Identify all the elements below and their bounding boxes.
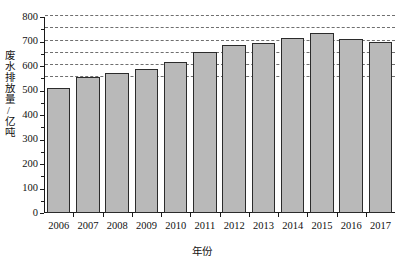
x-tick — [190, 213, 191, 217]
y-tick-label: 800 — [0, 12, 38, 22]
x-tick — [132, 213, 133, 217]
y-tick — [40, 66, 45, 67]
x-axis-title: 年份 — [0, 243, 403, 258]
x-tick — [307, 213, 308, 217]
bars-layer — [44, 17, 395, 213]
y-tick-minor — [41, 54, 44, 55]
y-tick-label: 700 — [0, 36, 38, 46]
bar-chart: 废水排放量/亿吨 0100200300400500600700800 20062… — [0, 0, 403, 269]
y-tick — [40, 42, 45, 43]
bar-2009 — [135, 69, 158, 213]
bar-2017 — [369, 42, 392, 213]
y-tick — [40, 91, 45, 92]
y-tick-label: 0 — [0, 208, 38, 218]
x-tick — [366, 213, 367, 217]
y-tick-minor — [41, 201, 44, 202]
x-tick — [73, 213, 74, 217]
y-tick-minor — [41, 29, 44, 30]
y-tick-label: 100 — [0, 183, 38, 193]
y-tick — [40, 17, 45, 18]
bar-2008 — [105, 73, 128, 213]
x-tick — [249, 213, 250, 217]
y-tick — [40, 164, 45, 165]
y-tick-label: 200 — [0, 159, 38, 169]
bar-2016 — [339, 39, 362, 213]
x-tick — [337, 213, 338, 217]
x-tick — [161, 213, 162, 217]
y-tick-minor — [41, 152, 44, 153]
y-tick-minor — [41, 103, 44, 104]
bar-2010 — [164, 62, 187, 213]
y-tick-label: 300 — [0, 134, 38, 144]
y-tick-label: 400 — [0, 110, 38, 120]
bar-2007 — [76, 77, 99, 213]
y-tick — [40, 213, 45, 214]
y-tick-label: 500 — [0, 85, 38, 95]
bar-2006 — [47, 88, 70, 213]
bar-2011 — [193, 52, 216, 213]
y-tick-minor — [41, 78, 44, 79]
y-tick — [40, 140, 45, 141]
x-tick-label: 2017 — [363, 220, 397, 231]
y-tick-label: 600 — [0, 61, 38, 71]
y-tick — [40, 115, 45, 116]
gridline — [45, 15, 395, 16]
x-tick — [103, 213, 104, 217]
bar-2013 — [252, 43, 275, 213]
bar-2014 — [281, 38, 304, 213]
bar-2015 — [310, 33, 333, 213]
x-tick — [278, 213, 279, 217]
bar-2012 — [222, 45, 245, 213]
y-tick-minor — [41, 176, 44, 177]
y-tick — [40, 189, 45, 190]
x-tick — [220, 213, 221, 217]
y-tick-minor — [41, 127, 44, 128]
